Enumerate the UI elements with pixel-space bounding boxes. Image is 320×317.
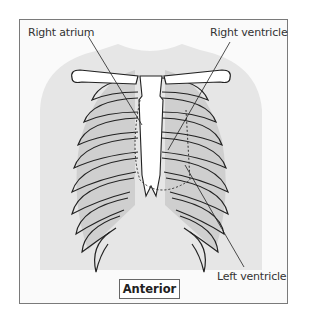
view-label-anterior: Anterior xyxy=(119,279,180,299)
label-right-atrium: Right atrium xyxy=(28,26,94,39)
label-left-ventricle: Left ventricle xyxy=(217,270,286,283)
label-right-ventricle: Right ventricle xyxy=(210,26,287,39)
sternum xyxy=(139,76,163,196)
